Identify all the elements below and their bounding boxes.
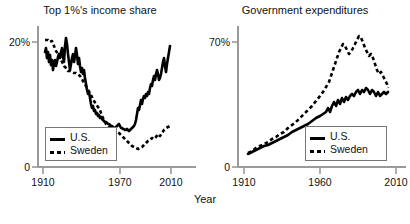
chart-panel-government-expenditures: Government expenditures 70% 0 1910 1960 … xyxy=(200,0,410,196)
x-tick-label-2010-left: 2010 xyxy=(146,176,196,188)
plot-area-left xyxy=(0,0,200,196)
plot-area-right xyxy=(200,0,410,196)
figure-container: Top 1%'s income share 20% 0 1910 1970 20… xyxy=(0,0,410,224)
x-tick-label-1960-right: 1960 xyxy=(295,176,345,188)
y-tick-label-20-left: 20% xyxy=(0,36,30,48)
legend-label-sweden-right: Sweden xyxy=(330,143,368,155)
legend-swatch-dashed-sweden-left xyxy=(49,144,66,155)
legend-right[interactable]: U.S. Sweden xyxy=(305,126,387,161)
legend-item-us-right[interactable]: U.S. xyxy=(309,129,382,142)
legend-label-us-left: U.S. xyxy=(70,131,90,143)
series-line-us-left xyxy=(45,38,170,131)
legend-swatch-solid-us-right xyxy=(309,130,326,141)
legend-item-sweden-right[interactable]: Sweden xyxy=(309,142,382,155)
legend-left[interactable]: U.S. Sweden xyxy=(45,127,117,161)
y-tick-label-0-left: 0 xyxy=(0,161,30,173)
y-tick-label-70-right: 70% xyxy=(200,36,230,48)
y-tick-label-0-right: 0 xyxy=(200,161,230,173)
legend-swatch-solid-us-left xyxy=(49,131,66,142)
legend-item-sweden-left[interactable]: Sweden xyxy=(49,143,112,156)
legend-label-us-right: U.S. xyxy=(330,130,350,142)
x-tick-label-1970-left: 1970 xyxy=(95,176,145,188)
chart-panel-top-income-share: Top 1%'s income share 20% 0 1910 1970 20… xyxy=(0,0,200,196)
legend-swatch-dashed-sweden-right xyxy=(309,143,326,154)
x-axis-title: Year xyxy=(0,192,410,206)
bottom-caption xyxy=(0,212,410,220)
x-tick-label-1910-right: 1910 xyxy=(219,176,269,188)
legend-item-us-left[interactable]: U.S. xyxy=(49,130,112,143)
legend-label-sweden-left: Sweden xyxy=(70,144,108,156)
x-tick-label-2010-right: 2010 xyxy=(371,176,410,188)
x-tick-label-1910-left: 1910 xyxy=(18,176,68,188)
